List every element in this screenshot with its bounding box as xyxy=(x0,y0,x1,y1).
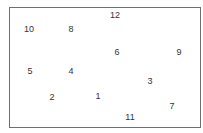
number-label: 2 xyxy=(49,93,54,102)
number-label: 3 xyxy=(147,77,152,86)
number-label: 6 xyxy=(114,48,119,57)
number-label: 9 xyxy=(176,48,181,57)
number-label: 8 xyxy=(68,25,73,34)
number-label: 1 xyxy=(95,92,100,101)
number-label: 7 xyxy=(169,102,174,111)
number-label: 10 xyxy=(24,25,34,34)
number-label: 11 xyxy=(125,113,134,122)
number-label: 4 xyxy=(68,67,73,76)
number-label: 5 xyxy=(27,67,32,76)
number-label: 12 xyxy=(110,11,120,20)
